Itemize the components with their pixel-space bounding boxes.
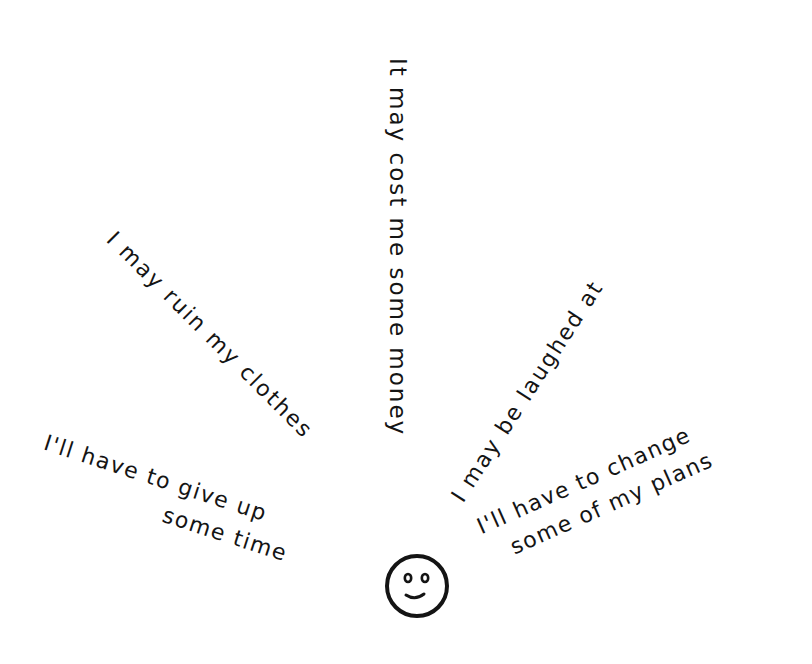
phrase-change-plans: I'll have to change some of my plans — [474, 420, 717, 568]
phrase-give-up-time: I'll have to give up some time — [31, 432, 300, 565]
illustration-canvas: It may cost me some money I may ruin my … — [0, 0, 812, 664]
phrase-text: It may cost me some money — [386, 58, 409, 436]
smiley-face-icon — [382, 551, 452, 621]
phrase-text: I may ruin my clothes — [102, 228, 316, 442]
phrase-cost-money: It may cost me some money — [386, 58, 409, 436]
phrase-ruin-clothes: I may ruin my clothes — [102, 228, 316, 442]
